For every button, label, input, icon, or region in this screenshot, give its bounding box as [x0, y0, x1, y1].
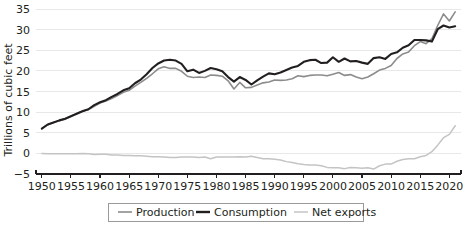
natural-gas-line-chart: −505101520253035 19501955196019651970197… [0, 0, 465, 229]
y-tick-label: 30 [16, 24, 30, 37]
y-tick-label: 0 [23, 147, 30, 160]
chart-canvas: −505101520253035 19501955196019651970197… [0, 0, 465, 229]
y-tick-label: 35 [16, 3, 30, 16]
y-tick-label: 10 [16, 106, 30, 119]
x-tick-label: 1965 [115, 180, 143, 193]
x-tick-label: 1950 [28, 180, 56, 193]
y-axis-title: Trillions of cubic feet [2, 43, 15, 158]
y-tick-label: 15 [16, 86, 30, 99]
x-tick-label: 1980 [202, 180, 230, 193]
legend: ProductionConsumptionNet exports [108, 203, 376, 221]
x-axis-tick-labels: 1950195519601965197019751980198519901995… [28, 180, 464, 193]
y-tick-label: 25 [16, 44, 30, 57]
x-tick-label: 2010 [377, 180, 405, 193]
y-axis-tick-labels: −505101520253035 [14, 3, 30, 181]
y-axis-title-text: Trillions of cubic feet [2, 43, 15, 158]
x-tick-label: 2020 [435, 180, 463, 193]
x-tick-label: 1970 [144, 180, 172, 193]
x-tick-label: 1985 [232, 180, 260, 193]
x-tick-label: 1960 [86, 180, 114, 193]
x-tick-label: 2015 [406, 180, 434, 193]
legend-label-net-exports[interactable]: Net exports [312, 206, 376, 219]
x-tick-label: 1955 [57, 180, 85, 193]
y-tick-label: 5 [23, 127, 30, 140]
x-tick-label: 1990 [261, 180, 289, 193]
y-tick-label: 20 [16, 65, 30, 78]
legend-label-production[interactable]: Production [136, 206, 195, 219]
data-series-group [42, 12, 455, 169]
gridlines-group [36, 9, 461, 174]
x-tick-label: 1995 [290, 180, 318, 193]
x-tick-label: 2000 [319, 180, 347, 193]
x-axis [36, 170, 461, 178]
x-tick-label: 2005 [348, 180, 376, 193]
series-line-consumption [42, 26, 455, 129]
x-tick-label: 1975 [173, 180, 201, 193]
series-line-net-exports [42, 126, 455, 169]
legend-label-consumption[interactable]: Consumption [214, 206, 287, 219]
